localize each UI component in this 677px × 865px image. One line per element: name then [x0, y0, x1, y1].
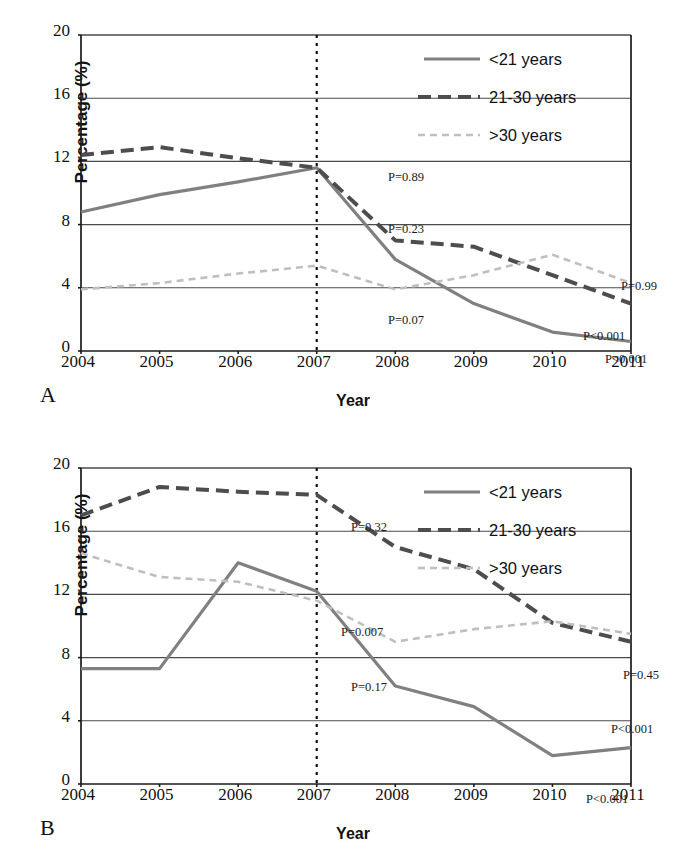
- p-value-annotation: P=0.007: [341, 625, 383, 640]
- p-value-annotation: P=0.07: [388, 313, 424, 328]
- figure-container: Percentage (%)YearA048121620200420052006…: [0, 0, 677, 865]
- x-tick-label: 2006: [200, 785, 270, 805]
- x-tick-label: 2006: [200, 352, 270, 372]
- x-tick-label: 2004: [43, 785, 113, 805]
- legend-label: <21 years: [489, 483, 562, 502]
- legend-item: 21-30 years: [418, 511, 576, 549]
- y-tick-label: 4: [24, 707, 70, 727]
- x-tick-label: 2005: [122, 352, 192, 372]
- x-tick-label: 2004: [43, 352, 113, 372]
- p-value-annotation: P<0.001: [611, 722, 653, 737]
- y-tick-label: 8: [24, 644, 70, 664]
- legend-item: <21 years: [418, 473, 576, 511]
- panel-label-b: B: [40, 815, 55, 841]
- x-tick-label: 2009: [436, 352, 506, 372]
- p-value-annotation: P=0.89: [388, 170, 424, 185]
- legend-item: >30 years: [418, 116, 576, 154]
- legend-item: <21 years: [418, 40, 576, 78]
- series-line: [81, 563, 631, 756]
- x-tick-label: 2008: [357, 352, 427, 372]
- legend-label: <21 years: [489, 50, 562, 69]
- legend-label: >30 years: [489, 126, 562, 145]
- legend-item: >30 years: [418, 549, 576, 587]
- x-tick-label: 2007: [279, 352, 349, 372]
- x-tick-label: 2007: [279, 785, 349, 805]
- panel-label-a: A: [40, 382, 56, 408]
- chart-panel-b: Percentage (%)YearB048121620200420052006…: [0, 433, 677, 865]
- p-value-annotation: P=0.99: [621, 279, 657, 294]
- p-value-annotation: P=0.17: [351, 680, 387, 695]
- x-tick-label: 2008: [357, 785, 427, 805]
- x-axis-title: Year: [78, 825, 628, 843]
- legend-item: 21-30 years: [418, 78, 576, 116]
- p-value-annotation: P<0.001: [586, 792, 628, 807]
- p-value-annotation: P<0.001: [605, 352, 647, 367]
- legend-label: 21-30 years: [489, 521, 576, 540]
- chart-legend: <21 years21-30 years>30 years: [418, 40, 576, 154]
- legend-label: >30 years: [489, 559, 562, 578]
- p-value-annotation: P=0.32: [351, 520, 387, 535]
- p-value-annotation: P=0.45: [623, 668, 659, 683]
- y-tick-label: 16: [24, 84, 70, 104]
- p-value-annotation: P=0.23: [388, 222, 424, 237]
- x-tick-label: 2005: [122, 785, 192, 805]
- x-tick-label: 2010: [514, 352, 584, 372]
- y-tick-label: 4: [24, 274, 70, 294]
- series-line: [81, 168, 631, 342]
- y-tick-label: 20: [24, 454, 70, 474]
- y-tick-label: 12: [24, 580, 70, 600]
- x-axis-title: Year: [78, 392, 628, 410]
- y-tick-label: 8: [24, 211, 70, 231]
- p-value-annotation: P<0.001: [583, 329, 625, 344]
- y-tick-label: 16: [24, 517, 70, 537]
- y-tick-label: 20: [24, 21, 70, 41]
- chart-panel-a: Percentage (%)YearA048121620200420052006…: [0, 0, 677, 432]
- y-tick-label: 12: [24, 147, 70, 167]
- chart-legend: <21 years21-30 years>30 years: [418, 473, 576, 587]
- legend-label: 21-30 years: [489, 88, 576, 107]
- x-tick-label: 2009: [436, 785, 506, 805]
- series-line: [81, 147, 631, 303]
- x-tick-label: 2010: [514, 785, 584, 805]
